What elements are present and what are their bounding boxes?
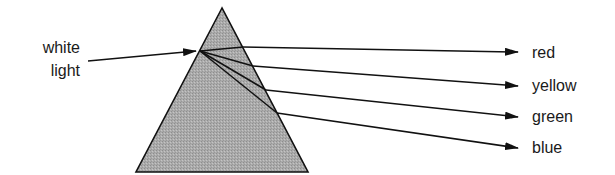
label-blue: blue [532,139,562,156]
ray-red [243,47,518,52]
label-light: light [51,62,81,79]
ray-green [266,90,518,117]
incoming-light-ray [88,51,196,61]
prism-diagram: white light red yellow green blue [0,0,615,175]
ray-blue [277,113,518,148]
label-yellow: yellow [532,77,577,94]
prism-triangle [136,8,308,172]
label-red: red [532,44,555,61]
label-green: green [532,108,573,125]
ray-yellow [253,66,518,86]
label-white: white [42,39,80,56]
